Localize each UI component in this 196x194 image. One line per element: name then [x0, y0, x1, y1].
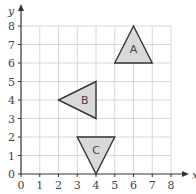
x-tick-label: 5: [111, 179, 118, 192]
y-tick-label: 6: [8, 57, 15, 70]
x-tick-label: 2: [55, 179, 62, 192]
y-tick-label: 7: [8, 39, 15, 52]
y-tick-label: 3: [8, 113, 15, 126]
y-tick-label: 8: [8, 20, 15, 33]
plot-canvas: ABC 012345678012345678xy: [0, 0, 196, 194]
y-tick-label: 2: [8, 131, 15, 144]
x-tick-label: 7: [149, 179, 156, 192]
x-axis-arrow-icon: [182, 171, 189, 177]
coordinate-grid-diagram: ABC 012345678012345678xy: [0, 0, 196, 194]
y-axis-label: y: [7, 5, 15, 18]
y-tick-label: 1: [8, 150, 15, 163]
y-axis-arrow-icon: [18, 4, 24, 11]
x-tick-label: 4: [93, 179, 100, 192]
x-tick-label: 8: [168, 179, 175, 192]
triangle-label: B: [81, 94, 89, 107]
x-axis-label: x: [192, 169, 196, 182]
y-tick-label: 4: [8, 94, 15, 107]
triangle-label: C: [92, 144, 100, 157]
x-tick-label: 0: [18, 179, 25, 192]
x-tick-label: 3: [74, 179, 81, 192]
y-tick-label: 0: [8, 168, 15, 181]
y-tick-label: 5: [8, 76, 15, 89]
triangle-label: A: [130, 43, 138, 56]
x-tick-label: 6: [130, 179, 137, 192]
x-tick-label: 1: [36, 179, 43, 192]
